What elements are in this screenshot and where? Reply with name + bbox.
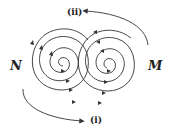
label-i: (i) [90, 115, 102, 125]
label-ii: (ii) [67, 7, 82, 17]
spiral-diagram [0, 0, 169, 132]
arrow-ii [85, 11, 148, 45]
left-spiral [32, 29, 88, 90]
arrow-i [23, 89, 82, 121]
label-n: N [10, 58, 22, 73]
label-m: M [148, 58, 162, 73]
spiral-arrowheads [30, 30, 111, 105]
